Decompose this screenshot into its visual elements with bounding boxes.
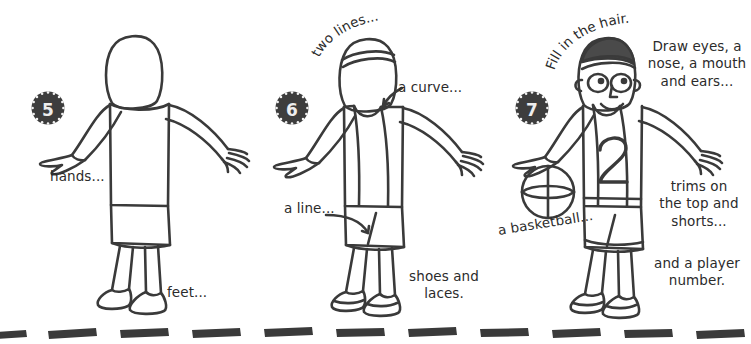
pupil-right xyxy=(621,78,628,85)
right-leg-inner xyxy=(158,246,161,293)
step-panel-7: 7 xyxy=(500,0,751,320)
caption-draw-face-line-2: nose, a mouth xyxy=(648,55,746,71)
right-arm-lower xyxy=(639,121,695,161)
right-thumb xyxy=(222,159,228,172)
left-arm-inner xyxy=(319,116,355,163)
left-leg-inner xyxy=(129,247,133,289)
caption-shoes-and-laces-line-1: shoes and xyxy=(409,268,479,284)
caption-player-number: and a playernumber. xyxy=(643,255,751,290)
caption-two-lines: two lines... xyxy=(312,12,442,64)
left-leg-inner xyxy=(602,251,606,293)
pupil-left xyxy=(598,78,605,85)
eye-right xyxy=(611,74,631,92)
right-arm-upper xyxy=(169,105,228,149)
right-arm-lower xyxy=(166,119,222,159)
shorts-trim xyxy=(585,240,643,245)
caption-two-lines-text: two lines... xyxy=(308,8,380,60)
right-shoe xyxy=(130,292,166,314)
caption-draw-face-line-3: and ears... xyxy=(661,73,734,89)
right-shoe-laces xyxy=(367,303,397,306)
left-leg-outer xyxy=(585,250,593,294)
tutorial-page: 5 xyxy=(0,0,751,344)
caption-draw-face: Draw eyes, anose, a mouthand ears... xyxy=(645,38,749,90)
step-5-figure xyxy=(0,0,250,320)
right-leg-inner xyxy=(392,248,395,295)
eye-left xyxy=(588,74,608,92)
right-thumb xyxy=(456,162,462,175)
caption-draw-face-line-1: Draw eyes, a xyxy=(652,38,741,54)
bottom-dashed-border xyxy=(0,318,751,344)
caption-shoes-and-laces: shoes andlaces. xyxy=(396,268,492,303)
caption-feet: feet... xyxy=(167,284,207,301)
right-shoe-laces xyxy=(606,305,636,308)
left-shoe-laces xyxy=(573,302,603,305)
jersey-number xyxy=(600,138,627,182)
shoulder-left xyxy=(344,106,354,107)
head-outline xyxy=(106,36,162,108)
caption-trims: trims onthe top andshorts... xyxy=(649,178,749,230)
right-leg-inner xyxy=(631,250,634,297)
left-shoe-laces xyxy=(334,300,364,303)
caption-player-number-line-1: and a player xyxy=(654,255,740,271)
left-leg-outer xyxy=(112,246,120,290)
svg-text:two lines...: two lines... xyxy=(308,8,380,60)
caption-fill-in-the-hair-text: Fill in the hair. xyxy=(542,10,630,72)
caption-trims-line-1: trims on xyxy=(671,178,728,194)
left-hand xyxy=(274,158,319,177)
tank-trim xyxy=(584,198,641,199)
tank-strap-right xyxy=(381,107,388,206)
shorts-outline xyxy=(345,206,404,247)
left-arm-outer xyxy=(72,105,110,155)
left-shoe xyxy=(98,289,131,309)
caption-shoes-and-laces-line-2: laces. xyxy=(424,285,464,301)
tank-strap-left xyxy=(593,105,598,205)
step-panel-6: 6 xyxy=(250,0,500,320)
right-thumb xyxy=(695,161,701,174)
left-leg-outer xyxy=(346,248,354,292)
right-leg-outer xyxy=(618,251,619,296)
tank-strap-left xyxy=(354,106,359,205)
left-arm-inner xyxy=(558,115,594,162)
left-arm-inner xyxy=(85,112,121,160)
right-leg-outer xyxy=(379,249,380,294)
caption-a-line: a line... xyxy=(284,200,335,217)
caption-a-curve: a curve... xyxy=(398,79,462,96)
shorts-center-line xyxy=(607,215,615,246)
right-leg-outer xyxy=(145,247,146,292)
left-arm-outer xyxy=(545,107,583,157)
step-panel-5: 5 xyxy=(0,0,250,320)
caption-player-number-line-2: number. xyxy=(669,272,725,288)
left-arm-outer xyxy=(306,108,344,158)
left-leg-inner xyxy=(363,249,367,291)
caption-hands: hands... xyxy=(50,168,105,185)
right-arm-lower xyxy=(400,122,456,162)
torso-outline xyxy=(110,104,169,206)
right-arm-upper xyxy=(403,108,462,152)
caption-trims-line-3: shorts... xyxy=(671,213,727,229)
caption-trims-line-2: the top and xyxy=(659,195,738,211)
svg-text:Fill in the hair.: Fill in the hair. xyxy=(542,10,630,72)
right-arm-upper xyxy=(642,107,701,151)
shorts-outline xyxy=(111,205,170,245)
